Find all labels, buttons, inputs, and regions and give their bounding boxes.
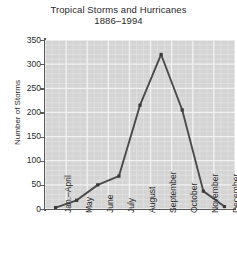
y-axis-tick-label: 50 [1, 179, 41, 189]
y-axis-tick-label: 200 [1, 107, 41, 117]
x-axis-tick-text: December [231, 174, 237, 213]
y-axis-tick-label: 0 [1, 204, 41, 214]
plot-area [45, 40, 235, 209]
data-series-line [45, 40, 235, 209]
page-title: Tropical Storms and Hurricanes [0, 4, 237, 15]
x-axis-tick-text: May [84, 197, 94, 213]
x-axis-tick-text: June [105, 195, 115, 213]
x-axis-tick-text: September [168, 171, 178, 213]
x-axis-tick-text: October [189, 183, 199, 213]
x-axis-tick-text: July [126, 198, 136, 213]
chart-title-block: Tropical Storms and Hurricanes 1886–1994 [0, 4, 237, 26]
chart-subtitle: 1886–1994 [0, 15, 237, 26]
x-axis-tick-text: Jan.–April [63, 175, 73, 213]
x-axis-tick-text: August [147, 187, 157, 213]
x-axis-tick-text: November [210, 174, 220, 213]
y-axis-tick-label: 150 [1, 131, 41, 141]
y-axis-tick-label: 350 [1, 35, 41, 45]
y-axis-tick-label: 300 [1, 59, 41, 69]
chart-container: Tropical Storms and Hurricanes 1886–1994… [0, 0, 237, 273]
y-axis-tick-label: 250 [1, 83, 41, 93]
y-axis-tick-label: 100 [1, 155, 41, 165]
